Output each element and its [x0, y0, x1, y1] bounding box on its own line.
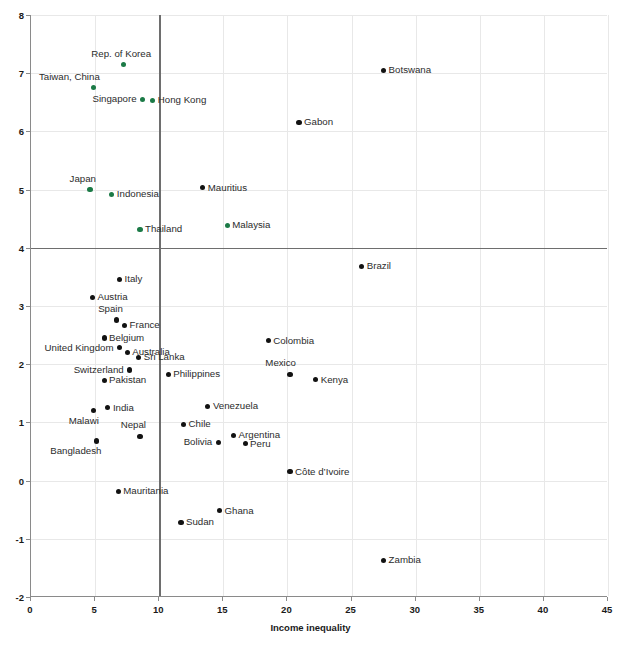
data-point-label: India [113, 403, 134, 413]
gridline-horizontal [31, 131, 607, 132]
gridline-vertical [480, 15, 481, 596]
x-tick-label: 35 [466, 604, 492, 615]
x-tick [222, 597, 223, 601]
y-tick [26, 15, 30, 16]
data-point[interactable] [217, 508, 222, 513]
footnote-strip [0, 640, 621, 646]
data-point[interactable] [296, 120, 301, 125]
data-point[interactable] [150, 98, 155, 103]
data-point[interactable] [231, 433, 236, 438]
data-point[interactable] [102, 335, 107, 340]
x-tick [607, 597, 608, 601]
x-tick [351, 597, 352, 601]
x-tick [286, 597, 287, 601]
data-point-label: Hong Kong [158, 95, 206, 105]
reference-line-horizontal [31, 248, 607, 249]
data-point[interactable] [178, 520, 183, 525]
data-point[interactable] [94, 438, 99, 443]
data-point[interactable] [127, 367, 132, 372]
data-point[interactable] [121, 62, 126, 67]
gridline-vertical [416, 15, 417, 596]
data-point[interactable] [87, 187, 92, 192]
data-point-label: Italy [125, 274, 143, 284]
x-tick-label: 5 [81, 604, 107, 615]
gridline-vertical [544, 15, 545, 596]
data-point-label: Singapore [92, 94, 136, 104]
x-tick [158, 597, 159, 601]
data-point[interactable] [359, 264, 364, 269]
x-tick-label: 25 [338, 604, 364, 615]
x-tick-label: 10 [145, 604, 171, 615]
gridline-horizontal [31, 481, 607, 482]
data-point[interactable] [116, 489, 121, 494]
y-tick-label: 7 [2, 68, 24, 79]
data-point-label: Bangladesh [50, 446, 101, 456]
gridline-vertical [287, 15, 288, 596]
y-tick-label: 3 [2, 301, 24, 312]
data-point[interactable] [114, 317, 119, 322]
y-tick [26, 422, 30, 423]
data-point[interactable] [122, 323, 127, 328]
data-point-label: Sudan [186, 517, 214, 527]
plot-area: Rep. of KoreaTaiwan, ChinaSingaporeHong … [30, 15, 607, 597]
gridline-horizontal [31, 15, 607, 16]
data-point[interactable] [205, 404, 210, 409]
data-point-label: Sri Lanka [144, 352, 185, 362]
gridline-horizontal [31, 73, 607, 74]
y-tick-label: 1 [2, 417, 24, 428]
data-point-label: Spain [98, 304, 123, 314]
data-point[interactable] [90, 295, 95, 300]
data-point-label: Mauritania [123, 486, 168, 496]
data-point-label: Brazil [367, 261, 391, 271]
data-point[interactable] [102, 378, 107, 383]
data-point[interactable] [313, 377, 318, 382]
y-tick-label: 8 [2, 10, 24, 21]
y-tick-label: 5 [2, 185, 24, 196]
data-point-label: Nepal [121, 420, 146, 430]
data-point[interactable] [381, 558, 386, 563]
data-point[interactable] [140, 97, 145, 102]
data-point-label: Rep. of Korea [91, 49, 151, 59]
data-point[interactable] [266, 338, 271, 343]
gridline-horizontal [31, 422, 607, 423]
data-point-label: Zambia [389, 555, 421, 565]
data-point-label: Malawi [69, 416, 99, 426]
data-point[interactable] [166, 372, 171, 377]
x-tick [543, 597, 544, 601]
data-point[interactable] [287, 469, 292, 474]
data-point[interactable] [117, 277, 122, 282]
y-tick [26, 190, 30, 191]
data-point[interactable] [381, 68, 386, 73]
data-point[interactable] [287, 372, 292, 377]
data-point[interactable] [117, 345, 122, 350]
x-tick-label: 0 [17, 604, 43, 615]
data-point-label: Switzerland [74, 365, 124, 375]
data-point-label: Chile [189, 419, 211, 429]
data-point-label: Japan [70, 174, 96, 184]
gridline-vertical [608, 15, 609, 596]
y-tick [26, 248, 30, 249]
data-point[interactable] [105, 405, 110, 410]
data-point[interactable] [109, 192, 114, 197]
y-tick [26, 131, 30, 132]
y-tick-label: -1 [2, 534, 24, 545]
x-axis-title: Income inequality [0, 622, 621, 633]
gridline-horizontal [31, 539, 607, 540]
data-point[interactable] [225, 223, 230, 228]
data-point[interactable] [243, 441, 248, 446]
y-tick-label: 6 [2, 126, 24, 137]
y-tick-label: -2 [2, 592, 24, 603]
x-tick [479, 597, 480, 601]
data-point[interactable] [137, 227, 142, 232]
y-tick-label: 4 [2, 243, 24, 254]
data-point-label: Pakistan [109, 375, 146, 385]
data-point-label: Philippines [173, 369, 220, 379]
data-point-label: Taiwan, China [39, 72, 100, 82]
data-point[interactable] [181, 422, 186, 427]
x-tick [94, 597, 95, 601]
data-point[interactable] [137, 434, 142, 439]
data-point[interactable] [136, 355, 141, 360]
data-point[interactable] [125, 350, 130, 355]
data-point-label: Ghana [225, 506, 254, 516]
data-point[interactable] [216, 440, 221, 445]
